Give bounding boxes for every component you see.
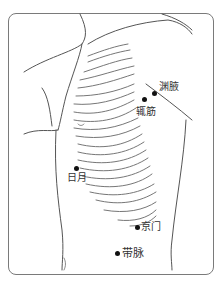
point-jingmen-label: 京门 xyxy=(141,222,161,232)
torso-outline xyxy=(0,0,224,285)
point-yuanye-label: 渊腋 xyxy=(159,82,179,92)
point-zhejin-dot xyxy=(142,97,147,102)
point-daimai-dot xyxy=(115,251,120,256)
point-riyue-dot xyxy=(74,166,79,171)
point-zhejin-label: 辄筋 xyxy=(136,107,156,117)
point-daimai-label: 带脉 xyxy=(122,248,144,259)
point-yuanye-dot xyxy=(152,91,157,96)
point-riyue-label: 日月 xyxy=(67,173,87,183)
point-jingmen-dot xyxy=(135,225,140,230)
